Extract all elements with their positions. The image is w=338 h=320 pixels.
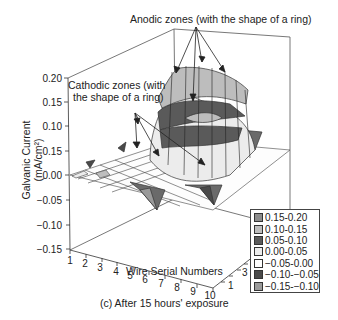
legend-label: −0.15-−0.10 (265, 281, 319, 292)
legend-swatch-icon (254, 213, 263, 222)
legend-label: −0.10-−0.05 (265, 269, 319, 280)
legend-label: −0.05-0.00 (265, 258, 313, 269)
legend-item: 0.00-0.05 (254, 246, 316, 257)
legend-swatch-icon (254, 259, 263, 268)
legend-swatch-icon (254, 270, 263, 279)
legend-label: 0.15-0.20 (265, 212, 307, 223)
z-tick-label: 0.15 (43, 97, 63, 108)
legend-item: 0.10-0.15 (254, 223, 316, 234)
cathodic-annotation-line2: the shape of a ring) (73, 91, 163, 103)
x-tick-label: 3 (97, 262, 103, 273)
x-tick-label: 4 (113, 266, 119, 277)
z-tick-label: 0.20 (43, 73, 63, 84)
x-tick-label: 1 (67, 255, 73, 266)
x-axis-labels: 1 2 3 4 5 6 7 8 9 10 (67, 255, 216, 301)
legend-item: −0.15-−0.10 (254, 280, 316, 291)
legend-label: 0.05-0.10 (265, 235, 307, 246)
z-tick-label: −0.10 (37, 220, 63, 231)
x-tick-label: 2 (82, 258, 88, 269)
anodic-annotation: Anodic zones (with the shape of a ring) (130, 13, 312, 25)
x-tick-label: 8 (174, 282, 180, 293)
z-tick-label: 0.00 (43, 170, 63, 181)
x-axis-title: Wire Serial Numbers (126, 265, 223, 277)
z-tick-label: 0.15 (43, 146, 63, 157)
x-tick-label: 7 (158, 278, 164, 289)
legend-label: 0.00-0.05 (265, 246, 307, 257)
legend-item: −0.10-−0.05 (254, 269, 316, 280)
depth-tick-label: 3 (242, 267, 248, 278)
y-axis-title-text: Galvanic Current (mA/cm²) (20, 121, 44, 200)
z-tick-label: 0.10 (43, 121, 63, 132)
legend-item: −0.05-0.00 (254, 258, 316, 269)
cathodic-annotation-line1: Cathodic zones (with (68, 79, 165, 91)
legend-label: 0.10-0.15 (265, 224, 307, 235)
legend-item: 0.05-0.10 (254, 235, 316, 246)
x-tick-label: 9 (190, 286, 196, 297)
z-tick-label: −0.15 (37, 244, 63, 255)
depth-tick-label: 1 (228, 280, 234, 291)
legend-swatch-icon (254, 247, 263, 256)
legend-swatch-icon (254, 225, 263, 234)
legend: 0.15-0.20 0.10-0.15 0.05-0.10 0.00-0.05 … (250, 209, 320, 293)
legend-item: 0.15-0.20 (254, 212, 316, 223)
figure-caption: (c) After 15 hours' exposure (100, 297, 229, 309)
y-axis-title: Galvanic Current (mA/cm²) (20, 100, 44, 220)
legend-swatch-icon (254, 236, 263, 245)
legend-swatch-icon (254, 282, 263, 291)
